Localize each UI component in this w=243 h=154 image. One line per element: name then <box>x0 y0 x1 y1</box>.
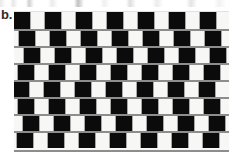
tile-dark <box>204 99 220 114</box>
tile-dark <box>137 82 153 97</box>
tile-dark <box>179 48 195 63</box>
tile-dark <box>112 31 128 46</box>
tile-row <box>14 97 229 114</box>
tile-dark <box>49 65 65 80</box>
tile-row <box>14 131 229 148</box>
tile-dark <box>79 133 95 148</box>
tile-strip <box>18 65 229 80</box>
cafe-wall-illusion <box>14 12 229 150</box>
tile-strip <box>18 99 229 114</box>
wall-bottom-mortar-line <box>14 150 229 152</box>
tile-dark <box>76 12 92 29</box>
tile-dark <box>173 65 189 80</box>
tile-dark <box>148 48 164 63</box>
tile-dark <box>18 65 34 80</box>
tile-dark <box>81 31 97 46</box>
tile-dark <box>210 48 226 63</box>
tile-dark <box>173 99 189 114</box>
tile-row <box>14 12 229 29</box>
tile-dark <box>205 31 221 46</box>
tile-strip <box>24 48 229 63</box>
tile-dark <box>117 48 133 63</box>
tile-dark <box>204 65 220 80</box>
tile-dark <box>85 116 101 131</box>
figure-root: b. <box>0 0 243 154</box>
tile-strip <box>19 31 229 46</box>
tile-dark <box>138 12 154 29</box>
tile-dark <box>50 31 66 46</box>
tile-dark <box>169 12 185 29</box>
tile-dark <box>107 12 123 29</box>
tile-dark <box>18 99 34 114</box>
tile-dark <box>106 82 122 97</box>
tile-dark <box>200 12 216 29</box>
tile-dark <box>203 133 219 148</box>
tile-dark <box>116 116 132 131</box>
tile-dark <box>141 133 157 148</box>
tile-dark <box>172 133 188 148</box>
tile-strip <box>23 116 229 131</box>
tile-dark <box>111 65 127 80</box>
tile-dark <box>111 99 127 114</box>
tile-dark <box>45 12 61 29</box>
figure-label: b. <box>1 8 12 22</box>
tile-dark <box>142 99 158 114</box>
scan-noise-artifact <box>0 0 243 7</box>
tile-row <box>14 63 229 80</box>
tile-dark <box>199 82 215 97</box>
tile-row <box>14 46 229 63</box>
tile-row <box>14 114 229 131</box>
tile-strip <box>14 12 229 29</box>
tile-dark <box>178 116 194 131</box>
tile-dark <box>80 65 96 80</box>
tile-row <box>14 29 229 46</box>
tile-dark <box>14 82 29 97</box>
tile-dark <box>110 133 126 148</box>
tile-dark <box>23 116 39 131</box>
tile-dark <box>24 48 40 63</box>
tile-dark <box>49 99 65 114</box>
tile-strip <box>17 133 229 148</box>
tile-dark <box>44 82 60 97</box>
tile-dark <box>19 31 35 46</box>
tile-dark <box>55 48 71 63</box>
tile-dark <box>14 12 30 29</box>
tile-dark <box>142 65 158 80</box>
tile-dark <box>75 82 91 97</box>
tile-dark <box>48 133 64 148</box>
tile-dark <box>80 99 96 114</box>
tile-dark <box>143 31 159 46</box>
tile-dark <box>209 116 225 131</box>
tile-strip <box>14 82 229 97</box>
tile-dark <box>86 48 102 63</box>
tile-dark <box>147 116 163 131</box>
tile-dark <box>17 133 33 148</box>
tile-row <box>14 80 229 97</box>
tile-dark <box>174 31 190 46</box>
tile-dark <box>54 116 70 131</box>
tile-dark <box>168 82 184 97</box>
